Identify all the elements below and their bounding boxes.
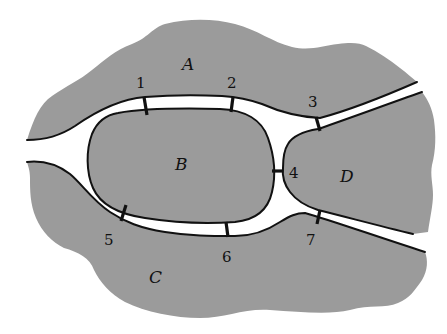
bridge-label-4: 4 — [289, 164, 299, 182]
bridge-label-5: 5 — [104, 231, 114, 249]
region-label-b: B — [174, 154, 188, 174]
bridge-label-1: 1 — [136, 74, 146, 92]
bridge-label-7: 7 — [306, 231, 316, 249]
bridge-label-2: 2 — [227, 74, 237, 92]
bridge-6 — [226, 222, 228, 237]
bridge-label-3: 3 — [308, 93, 318, 111]
region-label-a: A — [180, 54, 194, 74]
konigsberg-bridges-diagram: A B C D 1 2 3 4 5 6 7 — [0, 0, 447, 334]
bridge-2 — [231, 97, 233, 112]
region-label-c: C — [149, 267, 162, 287]
region-label-d: D — [339, 166, 354, 186]
bridge-label-6: 6 — [222, 248, 232, 266]
